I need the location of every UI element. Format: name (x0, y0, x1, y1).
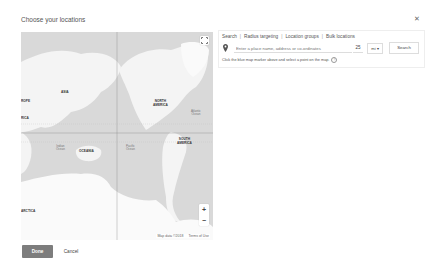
hint-label: Click the blue map marker above and sele… (222, 58, 329, 62)
map-label-indian-ocean: Indian Ocean (56, 145, 65, 152)
location-tabs: Search|Radius targeting|Location groups|… (222, 34, 355, 39)
tab-separator: | (281, 34, 282, 39)
location-search-panel: Search|Radius targeting|Location groups|… (218, 30, 425, 68)
map-label-pacific-ocean: Pacific Ocean (126, 145, 135, 152)
tab-separator: | (322, 34, 323, 39)
fullscreen-button[interactable] (200, 36, 209, 45)
map[interactable]: ASIA ROPE RICA OCEANIA NORTH AMERICA SOU… (21, 32, 213, 240)
fullscreen-icon (200, 36, 209, 45)
tab-location-groups[interactable]: Location groups (285, 34, 318, 39)
tab-radius-targeting[interactable]: Radius targeting (244, 34, 278, 39)
dialog-title: Choose your locations (21, 16, 85, 23)
zoom-control: + − (199, 204, 209, 226)
map-data-text: Map data ©2018 (157, 234, 183, 238)
tab-separator: | (240, 34, 241, 39)
hint-text: Click the blue map marker above and sele… (222, 57, 337, 63)
map-label-asia: ASIA (61, 91, 69, 95)
unit-dropdown[interactable]: mi ▾ (367, 43, 383, 54)
map-label-europe: ROPE (21, 100, 30, 104)
map-label-atlantic-ocean: Atlantic Ocean (191, 110, 201, 117)
tab-bulk-locations[interactable]: Bulk locations (326, 34, 355, 39)
search-button[interactable]: Search (389, 42, 419, 54)
map-label-north-america: NORTH AMERICA (153, 100, 168, 107)
map-label-africa: RICA (21, 117, 29, 121)
zoom-out-button[interactable]: − (199, 215, 209, 226)
zoom-in-button[interactable]: + (199, 204, 209, 215)
map-attribution: Map data ©2018 Terms of Use (156, 234, 210, 238)
close-icon[interactable]: ✕ (414, 15, 420, 23)
map-label-antarctica: ARCTICA (21, 210, 35, 214)
map-label-south-america: SOUTH AMERICA (177, 138, 192, 145)
location-search-input[interactable] (234, 44, 352, 53)
done-button[interactable]: Done (22, 245, 53, 258)
cancel-button[interactable]: Cancel (60, 245, 82, 258)
radius-input[interactable]: 25 (353, 44, 363, 53)
tab-search[interactable]: Search (222, 34, 237, 39)
terms-of-use-link[interactable]: Terms of Use (188, 234, 209, 238)
map-pin-icon[interactable] (223, 44, 228, 52)
map-label-oceania: OCEANIA (79, 150, 94, 154)
world-map-graphic (21, 32, 213, 240)
help-icon[interactable]: ? (331, 57, 337, 63)
